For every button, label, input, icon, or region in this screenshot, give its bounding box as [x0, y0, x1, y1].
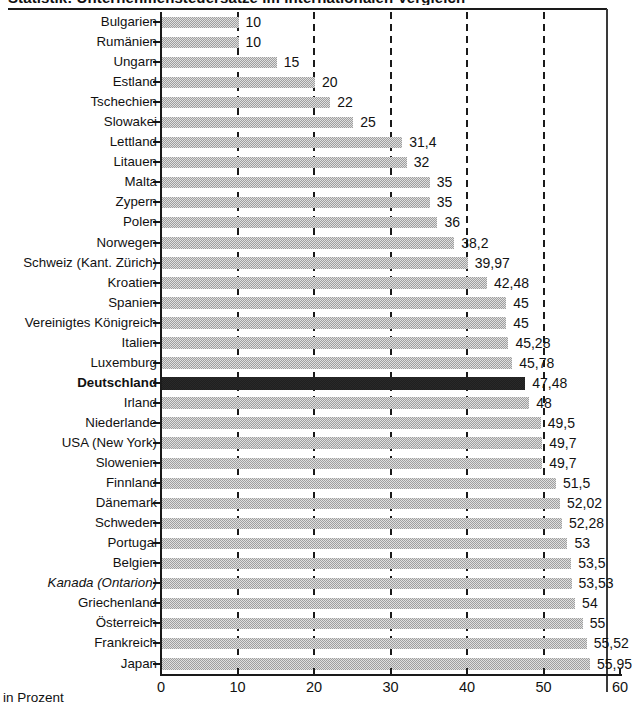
bar-row[interactable]: Slowakei25	[0, 112, 630, 132]
category-label: Malta	[124, 172, 157, 192]
category-label: Zypern	[116, 192, 157, 212]
bar-row[interactable]: Frankreich55,52	[0, 633, 630, 653]
bar[interactable]	[162, 437, 542, 449]
bar-row[interactable]: Niederlande49,5	[0, 413, 630, 433]
bar[interactable]	[162, 37, 239, 49]
bar-row[interactable]: Litauen32	[0, 152, 630, 172]
axis-unit-label: in Prozent	[3, 690, 64, 706]
bar[interactable]	[162, 197, 430, 209]
bar[interactable]	[162, 458, 542, 470]
value-label: 25	[360, 112, 376, 132]
bar-row[interactable]: Irland48	[0, 393, 630, 413]
bar[interactable]	[162, 498, 560, 510]
bar[interactable]	[162, 237, 454, 249]
bar[interactable]	[162, 618, 583, 630]
bar-row[interactable]: Luxemburg45,78	[0, 353, 630, 373]
bar[interactable]	[162, 478, 556, 490]
category-label: Lettland	[110, 132, 157, 152]
category-label: Tschechien	[90, 92, 157, 112]
value-label: 54	[582, 593, 598, 613]
bar-row[interactable]: Slowenien49,7	[0, 453, 630, 473]
bar-row[interactable]: Tschechien22	[0, 92, 630, 112]
category-label: Finnland	[106, 473, 157, 493]
bar-row[interactable]: Zypern35	[0, 192, 630, 212]
chart-title: Statistik: Unternehmensteuersätze im int…	[8, 0, 608, 5]
x-tick-20	[313, 668, 315, 676]
bar-row[interactable]: Schweiz (Kant. Zürich)39,97	[0, 253, 630, 273]
bar[interactable]	[162, 117, 353, 129]
bar-row[interactable]: Polen36	[0, 212, 630, 232]
bar-row[interactable]: Malta35	[0, 172, 630, 192]
bar-row[interactable]: Japan55,95	[0, 654, 630, 674]
bar-row[interactable]: Griechenland54	[0, 593, 630, 613]
category-label: Polen	[123, 212, 157, 232]
value-label: 38,2	[461, 233, 488, 253]
x-tick-10	[237, 668, 239, 676]
bar[interactable]	[162, 538, 567, 550]
bar[interactable]	[162, 638, 587, 650]
bar-row[interactable]: Belgien53,5	[0, 553, 630, 573]
bar[interactable]	[162, 297, 506, 309]
category-label: Slowakei	[104, 112, 157, 132]
bar-row[interactable]: USA (New York)49,7	[0, 433, 630, 453]
bar[interactable]	[162, 177, 430, 189]
bar-row[interactable]: Dänemark52,02	[0, 493, 630, 513]
x-tick-label-60: 60	[612, 679, 628, 695]
bar-row[interactable]: Bulgarien10	[0, 12, 630, 32]
bar[interactable]	[162, 277, 487, 289]
value-label: 52,28	[569, 513, 604, 533]
plot-area: Bulgarien10Rumänien10Ungarn15Estland20Ts…	[0, 12, 630, 680]
value-label: 47,48	[532, 373, 567, 393]
bar[interactable]	[162, 217, 437, 229]
x-tick-40	[466, 668, 468, 676]
value-label: 32	[414, 152, 430, 172]
value-label: 55	[590, 613, 606, 633]
bar-row[interactable]: Österreich55	[0, 613, 630, 633]
bar[interactable]	[162, 658, 590, 670]
bar[interactable]	[162, 578, 572, 590]
value-label: 45	[513, 313, 529, 333]
category-label: Estland	[113, 72, 157, 92]
x-tick-50	[543, 668, 545, 676]
category-label: Rumänien	[96, 32, 157, 52]
bar[interactable]	[162, 337, 508, 349]
bar[interactable]	[162, 417, 541, 429]
bar-row[interactable]: Italien45,28	[0, 333, 630, 353]
bar-row[interactable]: Estland20	[0, 72, 630, 92]
bar-row[interactable]: Ungarn15	[0, 52, 630, 72]
category-label: Norwegen	[96, 233, 157, 253]
category-label: Vereinigtes Königreich	[25, 313, 157, 333]
frame-top-rule	[8, 8, 607, 10]
category-label: Litauen	[113, 152, 157, 172]
value-label: 36	[444, 212, 460, 232]
bar-row[interactable]: Norwegen38,2	[0, 233, 630, 253]
bar[interactable]	[162, 97, 330, 109]
bar-row[interactable]: Kanada (Ontarion)53,53	[0, 573, 630, 593]
bar-highlighted[interactable]	[162, 377, 525, 390]
bar[interactable]	[162, 257, 468, 269]
bar-row[interactable]: Kroatien42,48	[0, 273, 630, 293]
bar-row[interactable]: Deutschland47,48	[0, 373, 630, 393]
bar[interactable]	[162, 397, 529, 409]
category-label: Portugal	[107, 533, 157, 553]
x-tick-label-40: 40	[459, 679, 475, 695]
bar[interactable]	[162, 558, 571, 570]
bar-row[interactable]: Portugal53	[0, 533, 630, 553]
value-label: 35	[437, 192, 453, 212]
bar[interactable]	[162, 357, 512, 369]
bar[interactable]	[162, 17, 239, 29]
bar[interactable]	[162, 137, 402, 149]
bar-row[interactable]: Rumänien10	[0, 32, 630, 52]
bar[interactable]	[162, 77, 315, 89]
bar-row[interactable]: Lettland31,4	[0, 132, 630, 152]
value-label: 49,7	[549, 453, 576, 473]
bar-row[interactable]: Finnland51,5	[0, 473, 630, 493]
bar-row[interactable]: Schweden52,28	[0, 513, 630, 533]
bar-row[interactable]: Spanien45	[0, 293, 630, 313]
bar[interactable]	[162, 157, 407, 169]
bar[interactable]	[162, 518, 562, 530]
bar[interactable]	[162, 317, 506, 329]
bar[interactable]	[162, 57, 277, 69]
bar-row[interactable]: Vereinigtes Königreich45	[0, 313, 630, 333]
bar[interactable]	[162, 598, 575, 610]
